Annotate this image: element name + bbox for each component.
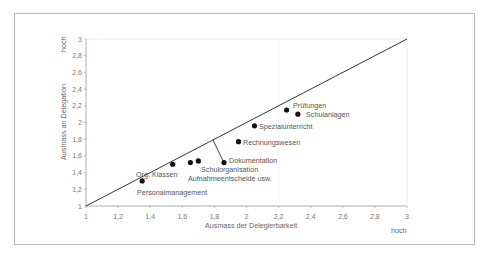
x-tick-label: 2 (245, 213, 249, 220)
x-tick-label: 2,4 (306, 213, 316, 220)
x-tick-label: 1,6 (177, 213, 187, 220)
label-dokumentation: Dokumentation (229, 156, 277, 165)
data-point (236, 139, 241, 144)
distance-connector-line (213, 140, 224, 163)
y-tick-label: 1,6 (72, 152, 82, 159)
label-schulanlagen: Schulanlagen (306, 110, 350, 119)
data-point (196, 158, 201, 163)
x-tick-label: 1,8 (210, 213, 220, 220)
label-pruefungen: Prüfungen (293, 101, 326, 110)
label-spezialunterricht: Spezialunterricht (259, 122, 313, 131)
y-tick-label: 2 (78, 119, 82, 126)
y-tick-label: 1 (78, 203, 82, 210)
y-axis-high-label: hoch (59, 36, 68, 52)
x-tick-label: 1,2 (113, 213, 123, 220)
y-tick-label: 1,8 (72, 136, 82, 143)
data-point (252, 123, 257, 128)
label-rechnungswesen: Rechnungswesen (243, 138, 300, 147)
x-tick-label: 2,8 (370, 213, 380, 220)
data-point (188, 160, 193, 165)
label-org-klassen: Org. Klassen (136, 170, 178, 179)
data-point (170, 162, 175, 167)
x-tick-label: 1,4 (145, 213, 155, 220)
x-axis-ticks: 11,21,41,61,822,22,42,62,83 (84, 206, 409, 220)
x-tick-label: 3 (405, 213, 409, 220)
label-aufnahmeentscheide: Aufnahmeentscheide usw. (188, 174, 272, 183)
label-personalmanagement: Personalmanagement (137, 188, 207, 197)
scatter-chart: 11,21,41,61,822,22,42,62,83 11,21,41,61,… (0, 0, 488, 259)
x-axis-high-label: hoch (391, 226, 407, 235)
x-axis-title: Ausmass der Delegierbarkeit (205, 221, 297, 230)
data-point (284, 107, 289, 112)
y-tick-label: 1,4 (72, 169, 82, 176)
y-tick-label: 2,4 (72, 86, 82, 93)
y-tick-label: 2,8 (72, 52, 82, 59)
x-tick-label: 2,2 (274, 213, 284, 220)
y-tick-label: 1,2 (72, 186, 82, 193)
label-schulorganisation: Schulorganisation (201, 165, 258, 174)
data-point (295, 112, 300, 117)
y-axis-ticks: 11,21,41,61,822,22,42,62,83 (72, 36, 86, 210)
y-tick-label: 2,2 (72, 102, 82, 109)
y-tick-label: 3 (78, 36, 82, 43)
x-tick-label: 2,6 (338, 213, 348, 220)
data-point (140, 178, 145, 183)
y-tick-label: 2,6 (72, 69, 82, 76)
y-axis-title: Ausmass an Delegation (59, 84, 68, 160)
x-tick-label: 1 (84, 213, 88, 220)
